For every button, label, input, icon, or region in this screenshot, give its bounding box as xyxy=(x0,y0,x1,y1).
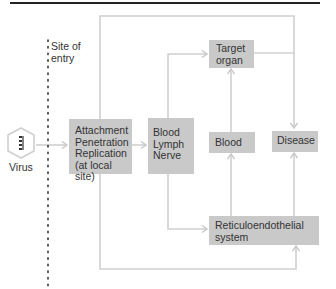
node-target-organ: Target organ xyxy=(209,40,254,68)
node-text: Replication xyxy=(75,148,126,160)
node-text: (at local site) xyxy=(75,160,126,183)
edge-routes-to-res xyxy=(168,173,207,229)
node-disease: Disease xyxy=(272,131,318,152)
node-text: Target xyxy=(216,43,248,55)
edge-routes-to-target xyxy=(168,54,207,118)
node-blood: Blood xyxy=(209,132,255,153)
virus-label: Virus xyxy=(9,162,33,174)
node-text: Reticuloendothelial xyxy=(215,220,313,232)
node-reticuloendothelial-system: Reticuloendothelial system xyxy=(209,216,319,245)
site-of-entry-label: Site of entry xyxy=(51,41,81,64)
site-of-entry-line1: Site of xyxy=(51,41,81,53)
node-blood-lymph-nerve: Blood Lymph Nerve xyxy=(148,118,194,174)
site-of-entry-line2: entry xyxy=(51,53,81,65)
edge-local-to-disease xyxy=(100,16,294,128)
virus-icon xyxy=(8,128,34,158)
node-text: Nerve xyxy=(153,150,188,162)
node-text: Attachment xyxy=(75,125,126,137)
node-text: organ xyxy=(216,55,248,67)
node-text: Blood xyxy=(153,127,188,139)
node-text: Disease xyxy=(277,135,312,147)
node-local-replication: Attachment Penetration Replication (at l… xyxy=(69,119,132,174)
node-text: Blood xyxy=(215,137,249,149)
node-text: system xyxy=(215,232,313,244)
